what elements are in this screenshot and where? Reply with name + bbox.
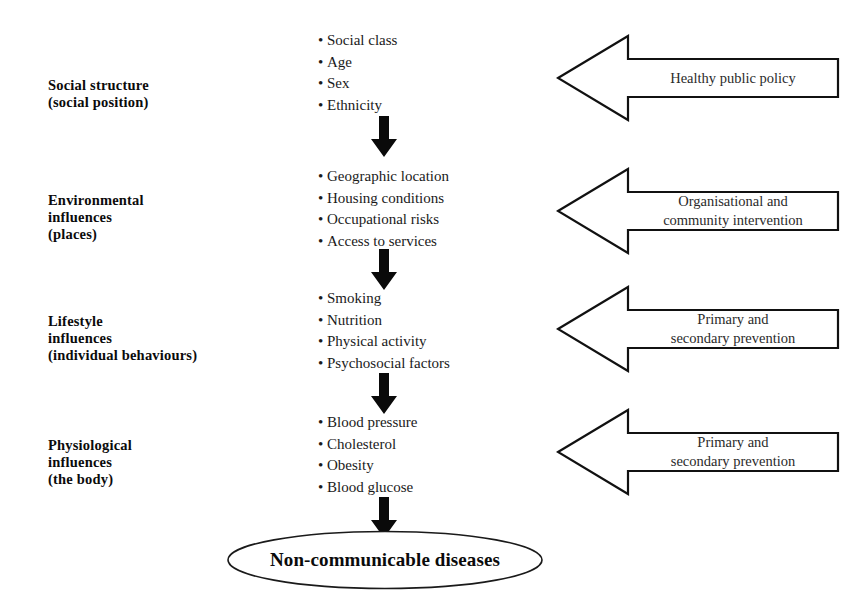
- stage-label-line2: (social position): [48, 94, 149, 111]
- flow-arrow-down-2: [368, 249, 400, 291]
- bullet-dot-icon: •: [318, 310, 327, 332]
- list-item: •Physical activity: [318, 331, 450, 353]
- bullet-list-social-structure: •Social class •Age •Sex •Ethnicity: [318, 30, 397, 116]
- bullet-dot-icon: •: [318, 353, 327, 375]
- bullet-dot-icon: •: [318, 288, 327, 310]
- bullet-list-environmental-influences: •Geographic location •Housing conditions…: [318, 166, 449, 252]
- bullet-dot-icon: •: [318, 331, 327, 353]
- list-item-label: Access to services: [327, 233, 437, 249]
- list-item: •Blood glucose: [318, 477, 417, 499]
- list-item-label: Blood pressure: [327, 414, 417, 430]
- intervention-arrow-primary-secondary-2: Primary and secondary prevention: [556, 406, 840, 498]
- bullet-list-physiological-influences: •Blood pressure •Cholesterol •Obesity •B…: [318, 412, 417, 498]
- list-item: •Occupational risks: [318, 209, 449, 231]
- stage-label-line1: Environmental influences: [48, 192, 144, 225]
- list-item-label: Smoking: [327, 290, 381, 306]
- outcome-ellipse: Non-communicable diseases: [226, 530, 544, 590]
- list-item: •Age: [318, 52, 397, 74]
- list-item-label: Age: [327, 54, 352, 70]
- list-item-label: Blood glucose: [327, 479, 413, 495]
- list-item-label: Ethnicity: [327, 97, 382, 113]
- list-item: •Cholesterol: [318, 434, 417, 456]
- list-item: •Social class: [318, 30, 397, 52]
- list-item-label: Obesity: [327, 457, 374, 473]
- list-item: •Geographic location: [318, 166, 449, 188]
- list-item: •Nutrition: [318, 310, 450, 332]
- bullet-dot-icon: •: [318, 412, 327, 434]
- list-item: •Blood pressure: [318, 412, 417, 434]
- list-item-label: Physical activity: [327, 333, 427, 349]
- bullet-dot-icon: •: [318, 231, 327, 253]
- stage-label-line2: (individual behaviours): [48, 347, 197, 364]
- list-item: •Ethnicity: [318, 95, 397, 117]
- list-item-label: Occupational risks: [327, 211, 439, 227]
- list-item-label: Geographic location: [327, 168, 449, 184]
- bullet-dot-icon: •: [318, 95, 327, 117]
- stage-label-environmental-influences: Environmental influences (places): [48, 175, 144, 260]
- intervention-arrow-organisational-community: Organisational and community interventio…: [556, 165, 840, 257]
- list-item: •Psychosocial factors: [318, 353, 450, 375]
- stage-label-social-structure: Social structure (social position): [48, 60, 149, 128]
- list-item-label: Cholesterol: [327, 436, 396, 452]
- intervention-arrow-healthy-public-policy: Healthy public policy: [556, 32, 840, 124]
- bullet-dot-icon: •: [318, 434, 327, 456]
- list-item: •Sex: [318, 73, 397, 95]
- flow-arrow-down-3: [368, 373, 400, 415]
- bullet-dot-icon: •: [318, 73, 327, 95]
- diagram-canvas: Social structure (social position) •Soci…: [0, 0, 856, 616]
- list-item-label: Psychosocial factors: [327, 355, 450, 371]
- bullet-dot-icon: •: [318, 52, 327, 74]
- intervention-arrow-primary-secondary-1: Primary and secondary prevention: [556, 283, 840, 375]
- bullet-dot-icon: •: [318, 477, 327, 499]
- bullet-dot-icon: •: [318, 188, 327, 210]
- bullet-dot-icon: •: [318, 455, 327, 477]
- bullet-list-lifestyle-influences: •Smoking •Nutrition •Physical activity •…: [318, 288, 450, 374]
- stage-label-physiological-influences: Physiological influences (the body): [48, 420, 132, 505]
- list-item-label: Housing conditions: [327, 190, 444, 206]
- stage-label-lifestyle-influences: Lifestyle influences (individual behavio…: [48, 296, 197, 381]
- bullet-dot-icon: •: [318, 30, 327, 52]
- list-item: •Housing conditions: [318, 188, 449, 210]
- list-item: •Smoking: [318, 288, 450, 310]
- stage-label-line1: Lifestyle influences: [48, 313, 112, 346]
- stage-label-line2: (places): [48, 226, 144, 243]
- stage-label-line2: (the body): [48, 471, 132, 488]
- bullet-dot-icon: •: [318, 166, 327, 188]
- stage-label-line1: Social structure: [48, 77, 149, 93]
- list-item-label: Sex: [327, 75, 350, 91]
- list-item-label: Nutrition: [327, 312, 382, 328]
- flow-arrow-down-1: [368, 116, 400, 158]
- bullet-dot-icon: •: [318, 209, 327, 231]
- list-item: •Obesity: [318, 455, 417, 477]
- stage-label-line1: Physiological influences: [48, 437, 132, 470]
- list-item-label: Social class: [327, 32, 397, 48]
